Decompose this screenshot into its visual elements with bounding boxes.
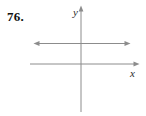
y-axis-label: y [72,6,78,18]
graph-line-right-arrowhead-icon [125,41,131,46]
x-axis-label: x [129,67,135,79]
exercise-figure: 76. y x [0,0,146,116]
coordinate-plane: y x [0,0,146,116]
graph-line-left-arrowhead-icon [34,41,40,46]
y-axis-arrowhead-icon [79,6,84,12]
x-axis-arrowhead-icon [134,62,140,67]
